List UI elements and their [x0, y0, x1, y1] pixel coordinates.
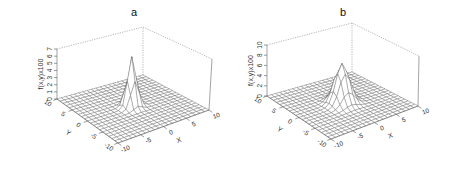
x-axis-label: X	[387, 131, 394, 139]
svg-text:4: 4	[256, 73, 263, 77]
svg-text:-5: -5	[356, 132, 364, 141]
svg-text:10: 10	[256, 41, 263, 49]
svg-text:5: 5	[401, 115, 407, 123]
y-axis-label: Y	[276, 125, 284, 134]
svg-text:6: 6	[256, 63, 263, 67]
svg-text:8: 8	[256, 53, 263, 57]
svg-text:-10: -10	[316, 137, 328, 148]
z-axis-label: f(x,y)x100	[247, 55, 255, 86]
figure: a01234567f(x,y)x100-10-50510Y-10-50510X …	[0, 0, 451, 174]
svg-text:-10: -10	[333, 139, 345, 149]
z-axis: 0246810f(x,y)x100	[247, 41, 267, 98]
svg-text:10: 10	[421, 107, 431, 116]
plot-title: b	[340, 6, 346, 18]
svg-text:5: 5	[271, 107, 278, 115]
svg-text:2: 2	[256, 84, 263, 88]
svg-text:-5: -5	[302, 128, 311, 137]
surface-mesh	[267, 63, 418, 139]
surface-plot-b: b0246810f(x,y)x100-10-50510Y-10-50510X	[0, 0, 451, 174]
svg-text:0: 0	[287, 117, 294, 125]
box-top-back	[267, 23, 419, 56]
svg-text:0: 0	[379, 124, 385, 132]
